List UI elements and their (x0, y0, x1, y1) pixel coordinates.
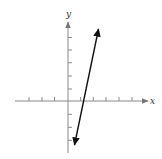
x-axis-label: x (150, 96, 155, 106)
coordinate-plane: x y (0, 0, 162, 159)
y-axis-label: y (65, 9, 72, 19)
plotted-line (75, 29, 99, 145)
x-axis-ticks (29, 97, 132, 101)
y-axis-ticks (68, 38, 72, 141)
